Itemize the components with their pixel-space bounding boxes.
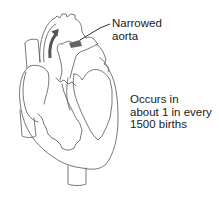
narrowed-aorta-label: Narrowed aorta xyxy=(112,17,162,42)
aortic-arch xyxy=(40,14,98,78)
aorta-label-line2: aorta xyxy=(112,30,162,43)
left-ventricle-wall xyxy=(73,69,112,140)
right-ventricle-wall xyxy=(38,84,82,150)
blood-flow-arrow xyxy=(50,34,56,58)
descending-aorta xyxy=(68,166,86,186)
incidence-line2: about 1 in every xyxy=(130,106,212,119)
aorta-label-line1: Narrowed xyxy=(112,17,162,30)
incidence-line3: 1500 births xyxy=(130,118,212,131)
aorta-leader-line xyxy=(80,24,110,40)
incidence-label: Occurs in about 1 in every 1500 births xyxy=(130,93,212,131)
incidence-line1: Occurs in xyxy=(130,93,212,106)
superior-vena-cava xyxy=(25,39,40,68)
pulmonary-artery xyxy=(57,44,62,80)
heart-diagram: Narrowed aorta Occurs in about 1 in ever… xyxy=(0,0,219,204)
narrowed-aorta-segment xyxy=(69,40,82,48)
heart-outline xyxy=(19,58,118,169)
